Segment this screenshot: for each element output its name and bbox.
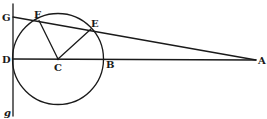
- label-a: A: [257, 55, 266, 66]
- line-da: [13, 59, 256, 60]
- label-b: B: [106, 59, 114, 70]
- label-g-lower: g: [4, 107, 11, 118]
- radius-ce: [58, 29, 91, 59]
- radius-cf: [39, 21, 58, 60]
- label-d: D: [2, 54, 11, 65]
- label-f: F: [34, 9, 41, 20]
- geometry-diagram: G F E D C B A g: [0, 0, 267, 119]
- center-point-c: [57, 58, 59, 60]
- label-e: E: [91, 18, 99, 29]
- secant-line-ga: [13, 17, 256, 60]
- label-g: G: [2, 12, 11, 23]
- label-c: C: [54, 62, 62, 73]
